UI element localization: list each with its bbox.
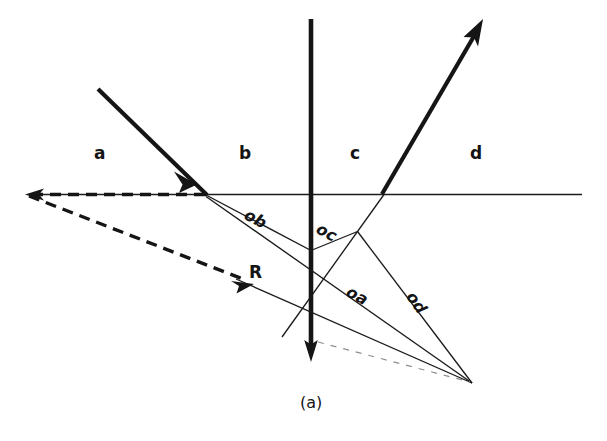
arrowhead-up-right-icon <box>464 19 484 47</box>
region-label-c: c <box>350 143 360 163</box>
region-label-a: a <box>94 143 106 163</box>
ray-label-r: R <box>249 262 262 282</box>
reflected-ray-dashed <box>29 196 243 279</box>
incident-ray <box>98 89 207 195</box>
region-label-d: d <box>470 143 482 163</box>
region-label-b: b <box>239 143 251 163</box>
exit-normal-construction-line <box>282 195 384 338</box>
arrowhead-down-right-icon <box>231 281 254 294</box>
figure-caption: (a) <box>300 393 322 412</box>
diagram-canvas <box>0 0 607 441</box>
emergent-ray <box>382 31 477 194</box>
optics-refraction-diagram: a b c d ob oc oa od R (a) <box>0 0 607 441</box>
